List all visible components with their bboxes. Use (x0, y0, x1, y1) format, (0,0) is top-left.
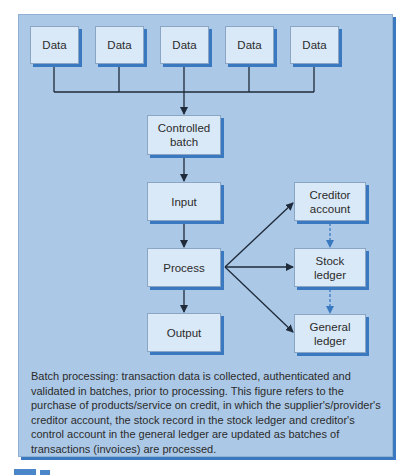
controlled-batch-box: Controlled batch (147, 115, 221, 155)
creditor-account-line2: account (310, 202, 351, 216)
input-label: Input (171, 195, 197, 209)
data-box-label: Data (237, 38, 261, 52)
figure-number-marker-2 (40, 470, 50, 475)
process-box: Process (147, 248, 221, 287)
stock-ledger-line2: ledger (314, 268, 346, 282)
controlled-batch-line1: Controlled (158, 121, 210, 135)
input-box: Input (147, 182, 221, 221)
data-box-label: Data (302, 38, 326, 52)
data-box-2: Data (95, 26, 144, 64)
general-ledger-line1: General (310, 320, 351, 334)
process-label: Process (163, 261, 205, 275)
data-box-4: Data (225, 26, 274, 64)
data-box-label: Data (107, 38, 131, 52)
general-ledger-box: General ledger (294, 314, 366, 353)
general-ledger-line2: ledger (310, 334, 351, 348)
data-box-label: Data (172, 38, 196, 52)
output-label: Output (167, 326, 202, 340)
controlled-batch-line2: batch (158, 135, 210, 149)
figure-number-marker (14, 469, 36, 475)
stock-ledger-box: Stock ledger (294, 248, 366, 287)
data-box-1: Data (30, 26, 79, 64)
stock-ledger-line1: Stock (314, 254, 346, 268)
output-box: Output (147, 313, 221, 352)
data-box-label: Data (42, 38, 66, 52)
figure-caption: Batch processing: transaction data is co… (31, 369, 387, 457)
data-box-5: Data (290, 26, 339, 64)
creditor-account-line1: Creditor (310, 188, 351, 202)
data-box-3: Data (160, 26, 209, 64)
creditor-account-box: Creditor account (294, 182, 366, 221)
